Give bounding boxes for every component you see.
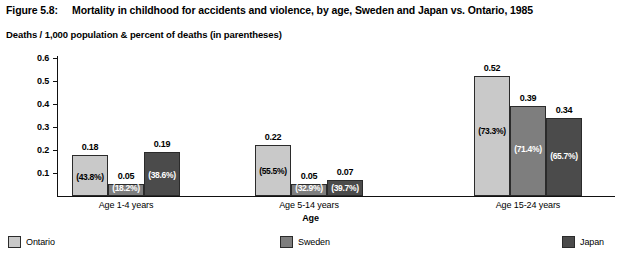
bar-value-label: 0.18 <box>65 142 115 152</box>
y-axis-tick-mark <box>53 173 58 174</box>
y-axis-tick: 0.3 <box>18 127 49 128</box>
y-axis-tick-mark <box>53 127 58 128</box>
bar-percent-label: (39.7%) <box>321 183 369 193</box>
legend-label: Sweden <box>298 237 330 247</box>
legend-swatch-sweden <box>280 236 293 248</box>
y-axis-tick: 0.5 <box>18 81 49 82</box>
y-axis-tick: 0.1 <box>18 173 49 174</box>
chart-legend: OntarioSwedenJapan <box>0 236 621 256</box>
legend-label: Ontario <box>26 237 55 247</box>
y-axis-tick-label: 0.2 <box>18 145 49 155</box>
bar-percent-label: (38.6%) <box>138 170 186 180</box>
bar-value-label: 0.22 <box>248 132 298 142</box>
x-axis-group-label: Age 1-4 years <box>66 200 186 210</box>
y-axis-tick-mark <box>53 104 58 105</box>
y-axis-tick: 0.6 <box>18 58 49 59</box>
bar-percent-label: (18.2%) <box>102 183 150 193</box>
bar-value-label: 0.34 <box>539 105 589 115</box>
legend-item-sweden[interactable]: Sweden <box>280 236 330 248</box>
y-axis-tick-mark <box>53 58 58 59</box>
y-axis-tick-mark <box>53 150 58 151</box>
bar-value-label: 0.39 <box>503 93 553 103</box>
legend-label: Japan <box>580 237 604 247</box>
y-axis-tick: 0.4 <box>18 104 49 105</box>
x-axis-line <box>57 196 615 197</box>
legend-item-japan[interactable]: Japan <box>562 236 604 248</box>
y-axis-tick-label: 0.6 <box>18 53 49 63</box>
x-axis-group-label: Age 5-14 years <box>249 200 369 210</box>
y-axis-tick-label: 0.4 <box>18 99 49 109</box>
bar-percent-label: (65.7%) <box>540 151 588 161</box>
legend-swatch-japan <box>562 236 575 248</box>
y-axis-tick-mark <box>53 81 58 82</box>
y-axis-tick-label: 0.1 <box>18 168 49 178</box>
bar-value-label: 0.07 <box>320 167 370 177</box>
x-axis-title: Age <box>0 213 621 223</box>
bar-value-label: 0.19 <box>137 139 187 149</box>
y-axis-tick-label: 0.3 <box>18 122 49 132</box>
bar-value-label: 0.52 <box>467 63 517 73</box>
legend-item-ontario[interactable]: Ontario <box>8 236 55 248</box>
bar-percent-label: (73.3%) <box>468 126 516 136</box>
x-axis-group-label: Age 15-24 years <box>468 200 588 210</box>
y-axis-tick-label: 0.5 <box>18 76 49 86</box>
bar-chart: 0.10.20.30.40.50.6 0.18(43.8%)0.05(18.2%… <box>0 0 621 260</box>
legend-swatch-ontario <box>8 236 21 248</box>
y-axis-tick: 0.2 <box>18 150 49 151</box>
